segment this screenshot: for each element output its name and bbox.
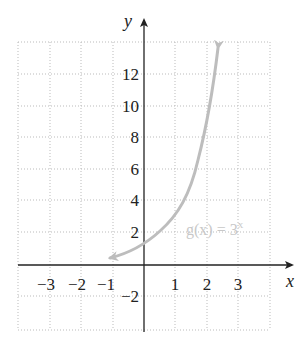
function-label: g(x) = 3x <box>186 218 244 239</box>
svg-text:2: 2 <box>131 223 140 242</box>
x-axis-label: x <box>285 271 294 291</box>
svg-text:1: 1 <box>171 275 180 294</box>
y-tick-labels: 12 10 8 6 4 2 −2 <box>121 65 140 306</box>
chart-canvas: y x −3 −2 −1 1 2 3 12 10 8 6 4 2 −2 g(x)… <box>0 0 306 349</box>
svg-text:3: 3 <box>234 275 243 294</box>
svg-text:8: 8 <box>131 128 140 147</box>
svg-text:10: 10 <box>122 97 139 116</box>
svg-text:−1: −1 <box>97 275 115 294</box>
y-axis-label: y <box>122 11 132 31</box>
svg-text:−3: −3 <box>37 275 55 294</box>
svg-text:2: 2 <box>203 275 212 294</box>
svg-text:−2: −2 <box>121 287 139 306</box>
svg-text:−2: −2 <box>68 275 86 294</box>
svg-text:12: 12 <box>122 65 139 84</box>
svg-text:4: 4 <box>131 191 140 210</box>
svg-text:6: 6 <box>131 160 140 179</box>
x-tick-labels: −3 −2 −1 1 2 3 <box>37 275 242 294</box>
